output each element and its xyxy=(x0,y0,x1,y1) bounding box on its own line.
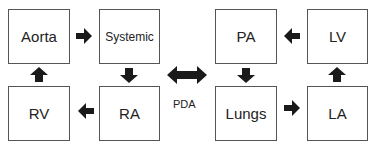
arrow-down-icon xyxy=(237,68,255,83)
double-arrow-icon xyxy=(167,66,207,84)
arrows-layer xyxy=(0,0,371,148)
arrow-up-icon xyxy=(30,67,48,82)
arrow-left-icon xyxy=(284,28,300,44)
arrow-down-icon xyxy=(120,68,138,83)
arrow-up-icon xyxy=(328,67,346,82)
arrow-right-icon xyxy=(76,28,92,44)
arrow-left-icon xyxy=(78,103,94,119)
arrow-right-icon xyxy=(284,100,300,116)
pda-label: PDA xyxy=(173,98,196,110)
